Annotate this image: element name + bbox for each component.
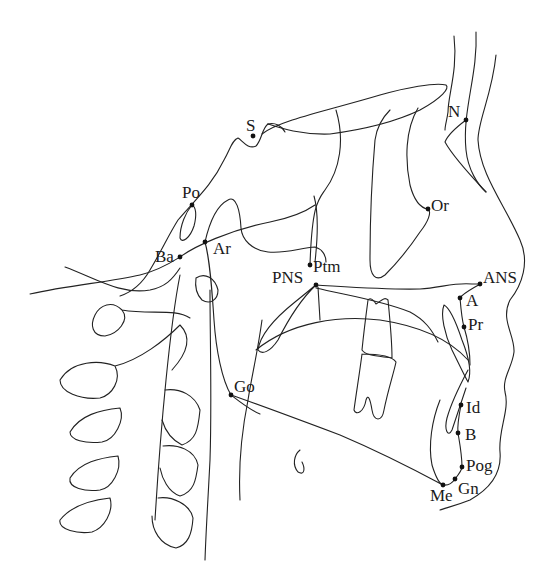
landmark-point [308,263,313,268]
landmark-point [458,296,463,301]
spine-anterior [205,290,211,560]
landmark-label: Or [431,196,449,215]
landmark-point [456,431,461,436]
landmark-gn: Gn [453,477,480,498]
anterior-cranial-base [262,84,447,134]
lower-molar [354,354,396,419]
landmark-label: Ptm [313,257,340,276]
landmark-me: Me [430,483,453,505]
landmark-label: ANS [483,268,517,287]
upper-molar [362,299,392,358]
landmark-point [460,465,465,470]
landmark-ans: ANS [478,268,517,287]
landmark-point [426,207,431,212]
symphysis-inner [430,400,443,485]
landmark-point [314,283,319,288]
landmark-label: Pr [468,315,483,334]
landmark-point [459,403,464,408]
landmark-point [178,255,183,260]
landmark-label: Pog [466,456,493,475]
landmark-point [229,393,234,398]
landmark-label: Gn [458,479,479,498]
zygomatic-arch [180,205,315,257]
landmark-label: S [246,116,255,135]
landmark-pns: PNS [272,268,318,287]
nasal-bone-line [465,32,486,192]
landmark-label: N [448,102,460,121]
landmark-label: Me [430,486,453,505]
tracing-svg: SNOrPoBaArPtmPNSANSAPrIdBPogGnMeGo [0,0,557,569]
landmark-ptm: Ptm [308,257,341,276]
symphysis-outer [458,405,462,467]
lower-incisor [446,370,468,433]
landmark-point [462,325,467,330]
landmark-point [203,240,208,245]
ptm-vertical [318,287,320,320]
palatal-plane [316,284,480,290]
landmark-label: Ba [155,247,174,266]
mandibular-border [231,395,462,485]
sella-outline [120,124,268,296]
vertebra-c2 [92,305,190,336]
orbit-outline [370,108,430,278]
landmark-label: Ar [213,239,231,258]
hard-palate-lower [316,288,438,342]
landmark-point [478,282,483,287]
landmark-label: A [466,291,479,310]
atlas [196,276,218,302]
landmark-label: Go [234,377,255,396]
landmark-s: S [246,116,255,138]
hyoid [294,450,304,473]
landmark-pog: Pog [460,456,493,475]
landmark-label: Po [182,183,200,202]
vertebra-c5 [70,446,198,496]
landmark-point [190,203,195,208]
landmark-layer: SNOrPoBaArPtmPNSANSAPrIdBPogGnMeGo [155,102,517,505]
landmark-label: Id [466,398,481,417]
porion-ellipse [180,205,196,240]
landmark-label: PNS [272,268,303,287]
landmark-label: B [465,425,476,444]
landmark-po: Po [182,183,200,207]
vertebra-c6 [60,498,193,548]
landmark-b: B [456,425,477,444]
landmark-n: N [448,102,468,122]
upper-incisor [443,305,470,382]
landmark-ba: Ba [155,247,182,266]
landmark-go: Go [229,377,255,397]
landmark-point [464,118,469,123]
cephalometric-tracing: SNOrPoBaArPtmPNSANSAPrIdBPogGnMeGo [0,0,557,569]
landmark-point [453,477,458,482]
